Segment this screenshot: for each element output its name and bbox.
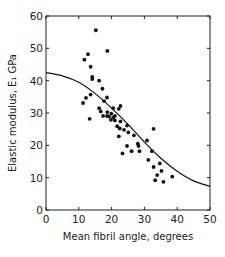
x-tick-label: 30 [138, 213, 151, 225]
data-point [160, 169, 164, 173]
data-point [82, 58, 86, 62]
x-tick-label: 40 [171, 213, 184, 225]
data-point [125, 144, 129, 148]
data-point [152, 165, 156, 169]
data-point [94, 28, 98, 32]
data-point [132, 133, 136, 137]
data-point [105, 110, 109, 114]
data-points [81, 28, 174, 183]
fitted-curve [46, 73, 210, 187]
data-point [117, 107, 121, 111]
data-point [105, 114, 109, 118]
y-tick-label: 40 [30, 75, 43, 87]
data-point [137, 144, 141, 148]
x-tick-label: 50 [203, 213, 216, 225]
data-point [153, 178, 157, 182]
plot-frame [46, 16, 210, 210]
x-tick-label: 10 [72, 213, 85, 225]
data-point [126, 131, 130, 135]
data-point [97, 106, 101, 110]
data-point [158, 162, 162, 166]
data-point [119, 120, 123, 124]
data-point [152, 127, 156, 131]
y-tick-label: 20 [30, 139, 43, 151]
data-point [162, 180, 166, 184]
plot-border [46, 16, 210, 210]
data-point [113, 119, 117, 123]
data-point [121, 152, 125, 156]
data-point [170, 175, 174, 179]
data-point [130, 149, 134, 153]
y-tick-label: 10 [30, 172, 43, 184]
x-axis-title: Mean fibril angle, degrees [63, 231, 193, 242]
x-tick-labels: 01020304050 [43, 213, 217, 225]
data-point [89, 93, 93, 97]
data-point [86, 52, 90, 56]
scatter-chart: 01020304050 0102030405060 Mean fibril an… [0, 0, 225, 257]
data-point [101, 114, 105, 118]
y-tick-label: 0 [36, 204, 43, 216]
data-point [145, 139, 149, 143]
data-point [101, 87, 105, 91]
data-point [122, 128, 126, 132]
data-point [81, 101, 85, 105]
data-point [125, 124, 129, 128]
y-axis-title: Elastic modulus, E₁ GPa [7, 54, 18, 172]
data-point [109, 118, 113, 122]
y-tick-label: 50 [30, 42, 43, 54]
data-point [155, 173, 159, 177]
chart-canvas: 01020304050 0102030405060 Mean fibril an… [0, 0, 225, 257]
y-tick-label: 60 [30, 10, 43, 22]
data-point [105, 49, 109, 53]
data-point [105, 96, 109, 100]
data-point [88, 117, 92, 121]
data-point [117, 134, 121, 138]
data-point [84, 96, 88, 100]
data-point [89, 65, 93, 69]
axis-ticks [46, 16, 210, 210]
x-tick-label: 20 [105, 213, 118, 225]
data-point [99, 109, 103, 113]
data-point [150, 149, 154, 153]
x-tick-label: 0 [43, 213, 50, 225]
data-point [97, 79, 101, 83]
data-point [102, 99, 106, 103]
data-point [111, 106, 115, 110]
y-tick-label: 30 [30, 107, 43, 119]
data-point [146, 158, 150, 162]
data-point [138, 149, 142, 153]
data-point [118, 127, 122, 131]
y-tick-labels: 0102030405060 [30, 10, 43, 216]
data-point [90, 77, 94, 81]
